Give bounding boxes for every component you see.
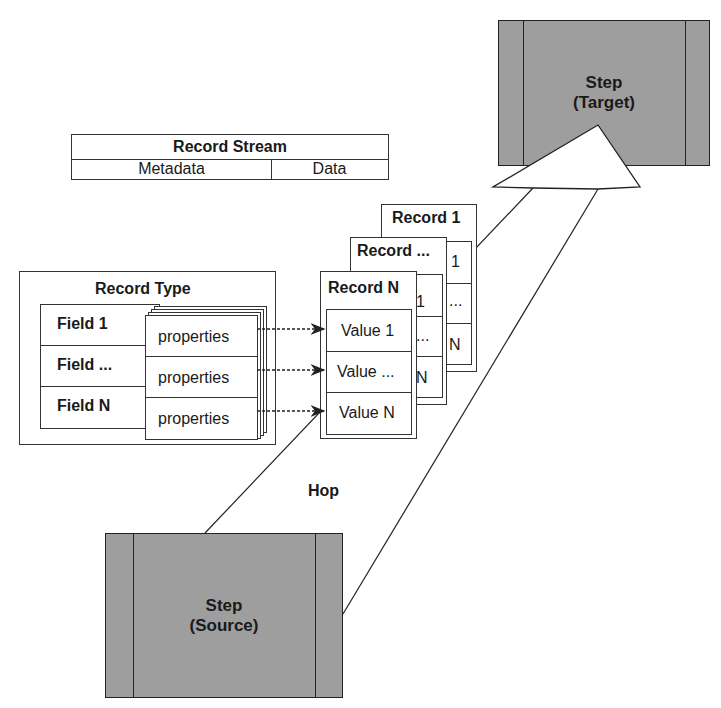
hop-label: Hop xyxy=(308,482,339,500)
property-value-connectors xyxy=(0,0,721,708)
